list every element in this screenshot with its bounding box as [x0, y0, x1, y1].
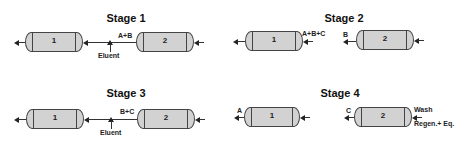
- inlet-line: [416, 117, 422, 118]
- inlet-arrow-icon: [195, 117, 200, 123]
- inlet-arrow-icon: [300, 115, 305, 121]
- inlet-line: [307, 41, 313, 42]
- column-1: 1: [245, 31, 303, 51]
- column-label: 1: [27, 113, 83, 122]
- column-label: 1: [245, 111, 299, 120]
- inlet-line: [199, 119, 205, 120]
- stage-3-title: Stage 3: [86, 87, 166, 99]
- stage-2-title: Stage 2: [304, 12, 384, 24]
- inlet-line: [418, 40, 424, 41]
- outlet-line: [18, 119, 26, 120]
- column-label: 2: [137, 36, 193, 45]
- outlet-arrow-icon: [343, 39, 348, 45]
- outlet-arrow-icon: [344, 115, 349, 121]
- column-2: 2: [354, 107, 412, 127]
- inlet-arrow-icon: [83, 40, 88, 46]
- outlet-arrow-icon: [14, 117, 19, 123]
- column-1: 1: [244, 107, 300, 127]
- outlet-arrow-icon: [14, 40, 19, 46]
- outlet-arrow-icon: [233, 39, 238, 45]
- inlet-arrow-icon: [303, 39, 308, 45]
- eluent-label: Eluent: [100, 129, 121, 136]
- between-label: B+C: [120, 108, 134, 115]
- column-label: 1: [26, 36, 82, 45]
- column-1: 1: [25, 32, 83, 52]
- column-2: 2: [136, 32, 194, 52]
- inlet-line: [304, 117, 310, 118]
- outlet-label: C: [346, 107, 351, 114]
- outlet-label: B: [343, 31, 348, 38]
- column-2: 2: [137, 109, 195, 129]
- column-2: 2: [356, 30, 414, 50]
- outlet-line: [237, 41, 245, 42]
- stage-4-title: Stage 4: [300, 87, 380, 99]
- outlet-line: [347, 41, 356, 42]
- column-label: 2: [357, 34, 413, 43]
- eluent-line: [111, 121, 112, 129]
- inlet-arrow-icon: [414, 38, 419, 44]
- inlet-line: [198, 42, 204, 43]
- eluent-label: Eluent: [98, 52, 119, 59]
- stage-1-title: Stage 1: [86, 12, 166, 24]
- between-label: A+B: [118, 32, 132, 39]
- inlet-arrow-icon: [194, 40, 199, 46]
- wash-label: Wash: [414, 106, 432, 113]
- column-label: 1: [246, 35, 302, 44]
- feed-label: A+B+C: [302, 30, 325, 37]
- outlet-label: A: [237, 107, 242, 114]
- column-label: 2: [138, 113, 194, 122]
- column-label: 2: [355, 111, 411, 120]
- regen-label: Regen.+ Eq.: [414, 120, 454, 127]
- column-1: 1: [26, 109, 84, 129]
- outlet-arrow-icon: [234, 115, 239, 121]
- outlet-line: [18, 42, 25, 43]
- eluent-line: [110, 44, 111, 52]
- inlet-arrow-icon: [84, 117, 89, 123]
